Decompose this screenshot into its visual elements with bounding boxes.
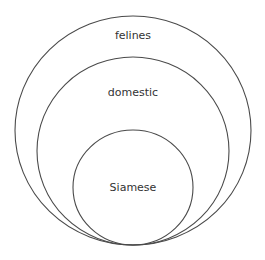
set-domestic: domestic bbox=[37, 57, 229, 245]
domestic-label: domestic bbox=[108, 86, 158, 99]
felines-label: felines bbox=[115, 29, 151, 42]
set-siamese: Siamese bbox=[73, 130, 193, 245]
siamese-label: Siamese bbox=[110, 181, 157, 194]
nested-set-diagram: felines domestic Siamese bbox=[0, 0, 265, 260]
